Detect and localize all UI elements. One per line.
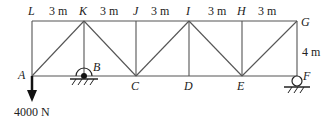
label-C: C bbox=[131, 79, 140, 93]
label-F: F bbox=[302, 69, 311, 83]
label-B: B bbox=[93, 60, 101, 74]
label-L: L bbox=[27, 4, 35, 18]
dim-height: 4 m bbox=[302, 45, 321, 59]
label-D: D bbox=[183, 79, 193, 93]
dim-panel-1: 3 m bbox=[49, 4, 68, 18]
truss-diagram: L K J I H G A B C D E F 3 m 3 m 3 m 3 m … bbox=[0, 0, 329, 122]
load-label: 4000 N bbox=[14, 105, 50, 119]
member-AK bbox=[32, 21, 84, 76]
label-J: J bbox=[133, 4, 139, 18]
load-arrow-icon bbox=[27, 76, 37, 102]
member-IE bbox=[189, 21, 242, 76]
dim-panel-2: 3 m bbox=[100, 4, 119, 18]
label-E: E bbox=[236, 79, 245, 93]
label-I: I bbox=[185, 4, 191, 18]
dim-panel-3: 3 m bbox=[151, 4, 170, 18]
member-EG bbox=[242, 21, 297, 76]
member-KC bbox=[84, 21, 136, 76]
label-H: H bbox=[236, 4, 247, 18]
label-G: G bbox=[301, 15, 310, 29]
label-K: K bbox=[78, 4, 88, 18]
member-CI bbox=[136, 21, 189, 76]
label-A: A bbox=[17, 68, 26, 82]
dim-panel-5: 3 m bbox=[258, 4, 277, 18]
dim-panel-4: 3 m bbox=[208, 4, 227, 18]
